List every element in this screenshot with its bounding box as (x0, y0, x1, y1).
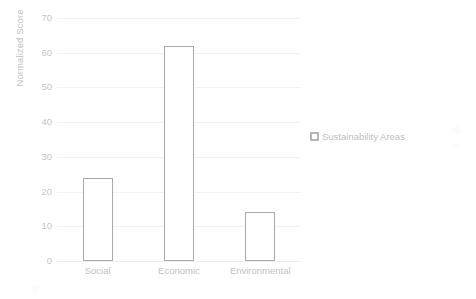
y-tick-label: 30 (30, 152, 52, 162)
y-tick-label: 70 (30, 13, 52, 23)
y-tick-label: 20 (30, 187, 52, 197)
y-tick-label: 10 (30, 221, 52, 231)
bar-economic (164, 46, 194, 261)
legend-item-label: Sustainability Areas (322, 131, 405, 142)
y-tick-label: 50 (30, 82, 52, 92)
plot-area (57, 18, 301, 261)
y-tick-label: 40 (30, 117, 52, 127)
y-axis-tick-labels: 70 60 50 40 30 20 10 0 (28, 18, 52, 261)
x-label-environmental: Environmental (220, 265, 301, 277)
bar-slot-environmental (220, 18, 301, 261)
x-label-economic: Economic (138, 265, 219, 277)
bar-chart: Normalized Score 70 60 50 40 30 20 10 0 (0, 0, 476, 299)
edge-artifact (452, 144, 461, 147)
gridline-0-baseline (57, 261, 301, 262)
y-tick-label: 60 (30, 48, 52, 58)
bar-environmental (245, 212, 275, 261)
legend-square-marker-icon (310, 132, 319, 141)
y-tick-label: 0 (30, 256, 52, 266)
chart-legend: Sustainability Areas (310, 131, 405, 142)
bar-slot-social (57, 18, 138, 261)
x-label-social: Social (57, 265, 138, 277)
y-axis-title: Normalized Score (13, 0, 27, 108)
x-axis-category-labels: Social Economic Environmental (57, 265, 301, 281)
edge-artifact (452, 126, 461, 135)
bar-social (83, 178, 113, 261)
bar-slot-economic (138, 18, 219, 261)
edge-artifact (32, 286, 39, 293)
bars-layer (57, 18, 301, 261)
